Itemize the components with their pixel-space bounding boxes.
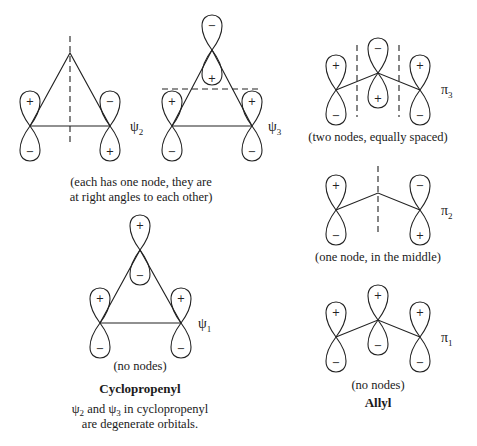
pi3-orbital: + − − + + − π3 bbox=[326, 38, 453, 125]
phase-sign: − bbox=[106, 96, 114, 107]
phase-sign: + bbox=[416, 307, 424, 318]
orbital-label: π1 bbox=[441, 330, 453, 348]
degenerate-note: are degenerate orbitals. bbox=[82, 417, 198, 431]
phase-sign: + bbox=[96, 293, 104, 304]
phase-sign: + bbox=[416, 230, 424, 241]
phase-sign: + bbox=[168, 96, 176, 107]
orbital-label: ψ3 bbox=[268, 119, 282, 137]
phase-sign: − bbox=[416, 110, 424, 121]
allyl-title: Allyl bbox=[365, 395, 392, 410]
psi3-orbital: − + + − + − ψ3 bbox=[162, 15, 282, 161]
phase-sign: + bbox=[208, 73, 216, 84]
phase-sign: − bbox=[416, 180, 424, 191]
pi2-caption: (one node, in the middle) bbox=[315, 250, 441, 264]
phase-sign: − bbox=[136, 270, 144, 281]
psi1-orbital: + − + − + − ψ1 bbox=[90, 215, 211, 358]
phase-sign: − bbox=[374, 43, 382, 54]
phase-sign: − bbox=[26, 146, 34, 157]
orbital-label: π2 bbox=[441, 203, 453, 221]
phase-sign: − bbox=[332, 357, 340, 368]
degenerate-caption: at right angles to each other) bbox=[70, 190, 213, 204]
degenerate-note: ψ2 and ψ3 in cyclopropenyl bbox=[72, 402, 209, 418]
phase-sign: + bbox=[136, 220, 144, 231]
phase-sign: + bbox=[374, 93, 382, 104]
pi1-orbital: + − + − + − π1 bbox=[326, 285, 453, 372]
phase-sign: + bbox=[248, 96, 256, 107]
phase-sign: + bbox=[332, 180, 340, 191]
orbital-label: ψ1 bbox=[198, 316, 211, 334]
psi1-caption: (no nodes) bbox=[113, 359, 166, 373]
pi2-orbital: + − − + π2 bbox=[326, 166, 453, 245]
phase-sign: − bbox=[96, 343, 104, 354]
phase-sign: − bbox=[177, 343, 185, 354]
phase-sign: + bbox=[26, 96, 34, 107]
phase-sign: − bbox=[248, 146, 256, 157]
phase-sign: + bbox=[374, 290, 382, 301]
pi1-caption: (no nodes) bbox=[351, 378, 404, 392]
phase-sign: − bbox=[332, 110, 340, 121]
phase-sign: − bbox=[332, 230, 340, 241]
phase-sign: + bbox=[177, 293, 185, 304]
orbital-label: ψ2 bbox=[130, 119, 143, 137]
degenerate-caption: (each has one node, they are bbox=[70, 175, 212, 189]
molecular-orbital-diagram: + − − + ψ2 − + + − + − ψ3 (each has one … bbox=[0, 0, 477, 446]
cyclopropenyl-title: Cyclopropenyl bbox=[99, 381, 181, 396]
phase-sign: + bbox=[416, 60, 424, 71]
phase-sign: − bbox=[374, 340, 382, 351]
phase-sign: + bbox=[332, 60, 340, 71]
phase-sign: + bbox=[106, 146, 114, 157]
phase-sign: − bbox=[208, 20, 216, 31]
orbital-label: π3 bbox=[441, 82, 453, 100]
phase-sign: − bbox=[168, 146, 176, 157]
psi2-orbital: + − − + ψ2 bbox=[20, 36, 143, 161]
phase-sign: − bbox=[416, 357, 424, 368]
pi3-caption: (two nodes, equally spaced) bbox=[308, 130, 448, 144]
phase-sign: + bbox=[332, 307, 340, 318]
